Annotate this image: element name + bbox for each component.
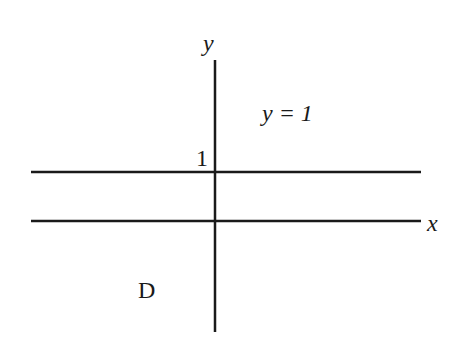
y-axis-label: y bbox=[201, 30, 214, 56]
intercept-label: 1 bbox=[196, 145, 208, 171]
region-label: D bbox=[138, 277, 155, 303]
line-equation-label: y = 1 bbox=[260, 100, 313, 126]
x-axis-label: x bbox=[426, 210, 438, 236]
diagram-canvas: y x 1 y = 1 D bbox=[0, 0, 460, 362]
